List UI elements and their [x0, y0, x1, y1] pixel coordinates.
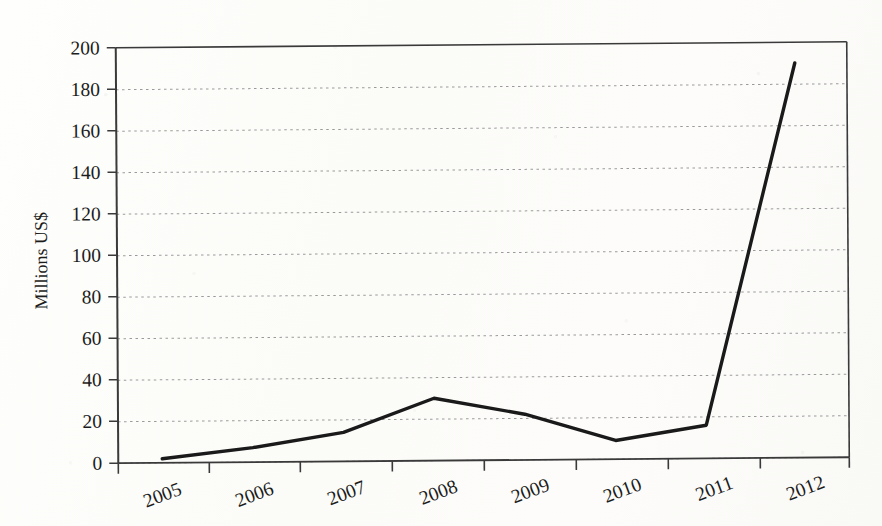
y-tick-label: 200: [70, 37, 99, 58]
y-axis-title: Millions US$: [31, 212, 52, 310]
data-series-line: [160, 63, 797, 459]
x-tick-label-2005: 2005: [140, 478, 184, 511]
y-tick-label: 80: [82, 286, 102, 307]
x-axis-tick-labels: 2005 2006 2007 2008 2009 2010 2011 2012: [140, 471, 827, 511]
x-tick-label-2012: 2012: [783, 471, 827, 504]
y-tick-label: 160: [71, 120, 100, 141]
x-tick-label-2006: 2006: [232, 478, 276, 511]
y-tick-label: 60: [82, 328, 102, 349]
x-tick-label-2007: 2007: [324, 476, 368, 509]
y-tick-label: 180: [71, 79, 100, 100]
plot-border-top: [116, 42, 847, 48]
x-tick-label-2009: 2009: [508, 474, 552, 507]
x-tick-label-2010: 2010: [600, 473, 644, 506]
plot-area-border: [116, 42, 850, 463]
y-tick-label: 140: [71, 162, 100, 183]
y-axis-tick-labels: 200 180 160 140 120 100 80 60 40 20 0: [70, 37, 102, 474]
x-tick-label-2011: 2011: [693, 472, 736, 505]
chart-canvas: 200 180 160 140 120 100 80 60 40 20 0 Mi…: [0, 0, 882, 526]
x-tick-label-2008: 2008: [416, 476, 460, 509]
y-tick-label: 40: [82, 369, 102, 390]
line-chart: 200 180 160 140 120 100 80 60 40 20 0 Mi…: [0, 0, 882, 526]
y-tick-label: 20: [82, 411, 102, 432]
y-tick-label: 120: [71, 203, 100, 224]
y-tick-label: 100: [72, 245, 101, 266]
plot-border-right: [847, 42, 850, 457]
y-tick-label: 0: [92, 453, 102, 474]
